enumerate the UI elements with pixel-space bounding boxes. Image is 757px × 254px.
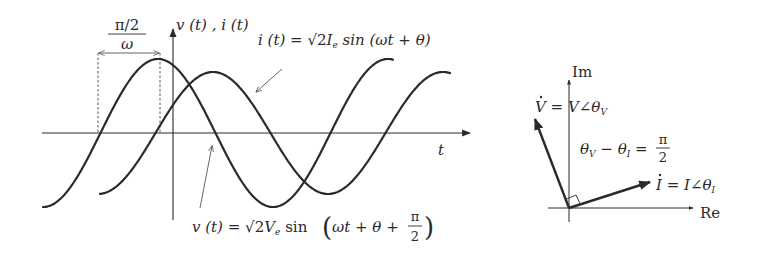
- v-label-pointer: [200, 146, 212, 208]
- re-axis-label: Re: [700, 204, 720, 222]
- x-axis-label: t: [438, 141, 445, 159]
- i-formula-lhs: i (t) =: [258, 31, 307, 49]
- theta-v: θ: [580, 140, 589, 158]
- left-paren: (: [322, 212, 332, 242]
- svg-text:I = I∠θI: I = I∠θI: [655, 176, 716, 195]
- im-axis-label: Im: [572, 63, 592, 81]
- i-formula-coef: 2: [317, 31, 327, 49]
- i-formula: i (t) = √2Ie sin (ωt + θ): [258, 31, 431, 50]
- phase-difference-label: θV − θI = π 2: [580, 132, 670, 165]
- phasor-diagram: Im Re V = V∠θV θV − θI = π 2 I = I∠θI: [535, 63, 720, 222]
- v-formula-func: sin: [280, 218, 307, 236]
- sqrt-symbol: √: [245, 218, 255, 236]
- v-formula-coef: 2: [255, 218, 265, 236]
- dot-accent: [540, 96, 542, 98]
- svg-text:v (t) = √2Ve sin: v (t) = √2Ve sin: [192, 218, 308, 237]
- dot-accent: [659, 174, 661, 176]
- current-phasor: [569, 182, 650, 208]
- voltage-phasor-label: V = V∠θV: [535, 96, 608, 117]
- v-frac-num: π: [411, 209, 420, 224]
- diff-frac-den: 2: [659, 150, 667, 165]
- v-frac-den: 2: [411, 229, 419, 244]
- phase-shift-numerator: π/2: [115, 16, 139, 34]
- v-formula: v (t) = √2Ve sin ( ωt + θ + π 2 ): [192, 209, 434, 244]
- v-phasor-sub: V: [600, 107, 608, 117]
- i-formula-func: sin (ωt + θ): [338, 31, 431, 49]
- v-formula-arg: ωt + θ +: [332, 218, 399, 236]
- diff-frac-num: π: [659, 132, 668, 147]
- svg-text:V = V∠θV: V = V∠θV: [535, 98, 608, 117]
- svg-text:θV − θI =: θV − θI =: [580, 140, 648, 159]
- current-phasor-label: I = I∠θI: [655, 174, 716, 195]
- right-paren: ): [424, 212, 434, 242]
- phase-shift-label: π/2 ω: [108, 16, 146, 53]
- i-phasor-rhs: = I∠θ: [662, 176, 712, 194]
- ac-phasor-figure: π/2 ω v (t) , i (t) t i (t) = √2Ie sin (…: [0, 0, 757, 254]
- minus-theta-i: − θ: [596, 140, 627, 158]
- i-label-pointer: [256, 69, 282, 92]
- phase-shift-denominator: ω: [121, 35, 133, 53]
- y-axis-label: v (t) , i (t): [176, 16, 249, 34]
- v-formula-lhs: v (t) =: [192, 218, 245, 236]
- waveform-plot: π/2 ω v (t) , i (t) t i (t) = √2Ie sin (…: [42, 16, 470, 244]
- i-phasor-sub: I: [711, 185, 716, 195]
- v-phasor-rhs: = V∠θ: [546, 98, 601, 116]
- equals-sign: =: [630, 140, 647, 158]
- sqrt-symbol: √: [307, 31, 317, 49]
- voltage-phasor: [535, 119, 569, 208]
